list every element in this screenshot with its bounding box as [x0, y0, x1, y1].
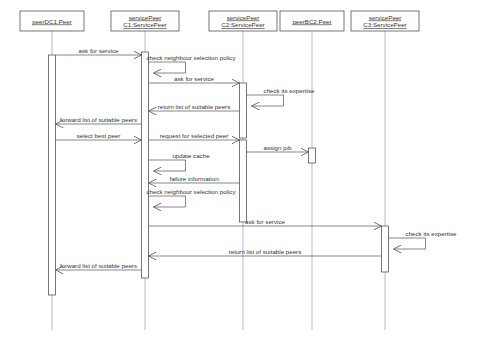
- message-5: forward list of suitable peers: [56, 116, 142, 125]
- participant-name-line2: C2:ServicePeer: [221, 21, 264, 28]
- message-label: forward list of suitable peers: [60, 116, 137, 123]
- message-11: check neighbour selection policy: [146, 188, 236, 208]
- message-label: ask for service: [79, 47, 119, 54]
- participant-head-servicePeerC3[interactable]: servicePeerC3:ServicePeer: [351, 11, 419, 31]
- self-call-path: [149, 160, 186, 171]
- participant-head-peerBC2[interactable]: peerBC2:Peer: [280, 11, 344, 31]
- participant-name-line2: C1:ServicePeer: [123, 21, 166, 28]
- message-10: failure information: [149, 175, 240, 184]
- message-label: ask for service: [174, 75, 214, 82]
- message-label: assign job: [264, 144, 292, 151]
- message-label: check its expertise: [264, 87, 315, 94]
- message-label: select best peer: [77, 132, 121, 139]
- message-label: check neighbour selection policy: [146, 54, 236, 61]
- message-13: check its expertise: [389, 230, 458, 250]
- message-4: return list of suitable peers: [149, 103, 240, 112]
- message-label: ask for service: [245, 218, 285, 225]
- message-label: request for selected peer: [160, 132, 228, 139]
- message-label: check neighbour selection policy: [146, 188, 236, 195]
- participant-name-line1: servicePeer: [369, 14, 402, 21]
- activations-layer: [49, 52, 389, 295]
- participant-name-line1: servicePeer: [129, 14, 162, 21]
- participant-heads-layer: peerDC1:PeerservicePeerC1:ServicePeerser…: [20, 11, 419, 31]
- message-0: ask for service: [56, 47, 142, 56]
- participant-name-line1: peerBC2:Peer: [292, 18, 331, 25]
- activation-bar-servicePeerC3: [382, 226, 389, 272]
- participant-head-servicePeerC1[interactable]: servicePeerC1:ServicePeer: [111, 11, 179, 31]
- message-9: update cache: [149, 152, 211, 172]
- activation-bar-servicePeerC1: [142, 52, 149, 278]
- activation-bar-servicePeerC2: [240, 83, 247, 138]
- activation-bar-peerDC1: [49, 55, 56, 295]
- message-label: return list of suitable peers: [158, 103, 231, 110]
- self-call-path: [247, 95, 284, 106]
- participant-head-servicePeerC2[interactable]: servicePeerC2:ServicePeer: [209, 11, 277, 31]
- participant-head-peerDC1[interactable]: peerDC1:Peer: [20, 11, 84, 31]
- self-call-path: [389, 238, 426, 249]
- message-7: request for selected peer: [149, 132, 240, 141]
- message-14: return list of suitable peers: [149, 248, 382, 257]
- messages-layer: ask for servicecheck neighbour selection…: [56, 47, 458, 271]
- message-label: update cache: [172, 152, 210, 159]
- participant-name-line2: C3:ServicePeer: [363, 21, 406, 28]
- message-15: forward list of suitable peers: [56, 262, 142, 271]
- participant-name-line1: peerDC1:Peer: [32, 18, 72, 25]
- message-label: return list of suitable peers: [229, 248, 302, 255]
- message-3: check its expertise: [247, 87, 316, 107]
- sequence-diagram-canvas: ask for servicecheck neighbour selection…: [0, 0, 485, 352]
- activation-bar-servicePeerC2: [240, 140, 247, 222]
- message-label: check its expertise: [406, 230, 457, 237]
- message-label: forward list of suitable peers: [60, 262, 137, 269]
- message-6: select best peer: [56, 132, 142, 141]
- self-call-path: [149, 62, 186, 73]
- participant-name-line1: servicePeer: [227, 14, 260, 21]
- message-8: assign job: [247, 144, 309, 153]
- message-1: check neighbour selection policy: [146, 54, 236, 74]
- activation-bar-peerBC2: [309, 148, 316, 163]
- message-label: failure information: [169, 175, 219, 182]
- message-12: ask for service: [149, 218, 382, 227]
- self-call-path: [149, 196, 186, 207]
- sequence-diagram-svg: ask for servicecheck neighbour selection…: [0, 0, 485, 352]
- message-2: ask for service: [149, 75, 240, 84]
